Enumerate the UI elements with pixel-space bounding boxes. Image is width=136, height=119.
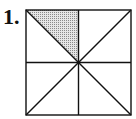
divided-square-figure (0, 0, 136, 119)
